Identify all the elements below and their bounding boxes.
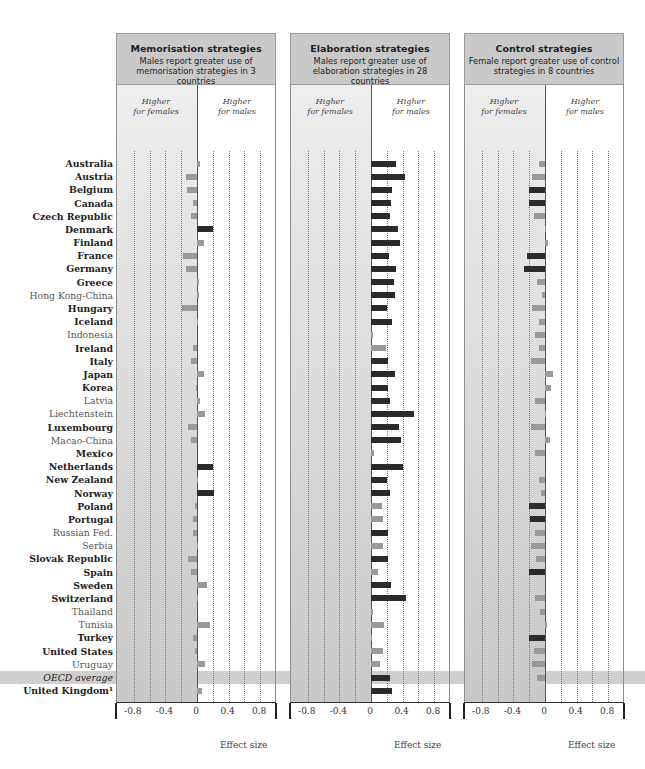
bar-norway	[541, 490, 545, 496]
bar-portugal	[371, 516, 383, 522]
country-label: Netherlands	[0, 460, 113, 473]
gridline	[608, 151, 609, 702]
bar-switzerland	[197, 595, 198, 601]
gridline	[561, 151, 562, 702]
x-tick-label: 0.4	[394, 706, 408, 716]
gridline	[260, 151, 261, 702]
bar-japan	[545, 371, 553, 377]
x-axis: -0.8-0.400.40.8	[464, 702, 624, 719]
x-tick-label: -0.8	[298, 706, 315, 716]
bar-macao-china	[191, 437, 197, 443]
country-label: Tunisia	[0, 618, 113, 631]
gridline	[339, 151, 340, 702]
bar-slovak-republic	[536, 556, 545, 562]
bar-latvia	[371, 398, 390, 404]
x-tick-label: -0.4	[330, 706, 347, 716]
bar-indonesia	[371, 332, 373, 338]
bar-oecd-average	[537, 675, 545, 681]
female-side-shading	[291, 85, 371, 702]
gridline	[134, 151, 135, 702]
country-label: Finland	[0, 236, 113, 249]
zero-line	[197, 85, 198, 702]
bar-poland	[371, 503, 382, 509]
bar-tunisia	[371, 622, 384, 628]
gridline	[498, 151, 499, 702]
bar-liechtenstein	[545, 411, 546, 417]
country-label: Canada	[0, 197, 113, 210]
bar-denmark	[197, 226, 213, 232]
bar-new-zealand	[197, 477, 198, 483]
bar-netherlands	[371, 464, 403, 470]
bar-liechtenstein	[197, 411, 205, 417]
bar-hungary	[371, 305, 387, 311]
gridline	[308, 151, 309, 702]
bar-austria	[371, 174, 405, 180]
bar-mexico	[535, 450, 545, 456]
higher-for-males-label: Higherfor males	[546, 97, 624, 117]
bar-hungary	[182, 305, 197, 311]
bar-luxembourg	[371, 424, 399, 430]
country-label: Portugal	[0, 513, 113, 526]
bar-korea	[196, 385, 197, 391]
bar-united-states	[534, 648, 545, 654]
gridline	[592, 151, 593, 702]
bar-oecd-average	[371, 675, 390, 681]
panel-title: Elaboration strategies	[291, 43, 449, 54]
panel-title: Memorisation strategies	[117, 43, 275, 54]
bar-australia	[371, 161, 396, 167]
bar-germany	[524, 266, 545, 272]
bar-ireland	[193, 345, 197, 351]
bar-serbia	[531, 543, 545, 549]
bar-portugal	[193, 516, 197, 522]
country-label: Luxembourg	[0, 421, 113, 434]
x-axis-title: Effect size	[394, 740, 441, 750]
panel-header: Memorisation strategiesMales report grea…	[116, 33, 276, 85]
bar-austria	[532, 174, 545, 180]
bar-serbia	[371, 543, 383, 549]
bar-united-kingdom	[197, 688, 202, 694]
country-label: Italy	[0, 355, 113, 368]
x-tick-label: 0	[193, 706, 199, 716]
bar-liechtenstein	[371, 411, 414, 417]
bar-greece	[371, 279, 394, 285]
country-label: Germany	[0, 262, 113, 275]
bar-latvia	[197, 398, 200, 404]
bar-denmark	[371, 226, 398, 232]
bar-iceland	[539, 319, 545, 325]
higher-for-females-label: Higherfor females	[117, 97, 195, 117]
country-label: United Kingdom¹	[0, 684, 113, 697]
bar-united-kingdom	[371, 688, 392, 694]
bar-luxembourg	[531, 424, 545, 430]
country-label: France	[0, 249, 113, 262]
country-label: Switzerland	[0, 592, 113, 605]
bar-austria	[186, 174, 197, 180]
x-tick-label: 0.4	[220, 706, 234, 716]
country-label: Macao-China	[0, 434, 113, 447]
bar-czech-republic	[534, 213, 545, 219]
country-label: Korea	[0, 381, 113, 394]
bar-spain	[529, 569, 545, 575]
gridline	[434, 151, 435, 702]
country-label: Poland	[0, 500, 113, 513]
x-tick-label: 0.8	[252, 706, 266, 716]
bar-italy	[371, 358, 388, 364]
bar-spain	[371, 569, 378, 575]
higher-for-females-label: Higherfor females	[465, 97, 543, 117]
bar-finland	[545, 240, 548, 246]
country-label: OECD average	[0, 671, 113, 684]
bar-luxembourg	[188, 424, 197, 430]
bar-uruguay	[197, 661, 205, 667]
country-label: Latvia	[0, 394, 113, 407]
x-axis-title: Effect size	[220, 740, 267, 750]
bar-ireland	[371, 345, 386, 351]
country-label: Serbia	[0, 539, 113, 552]
bar-germany	[186, 266, 197, 272]
country-label: Iceland	[0, 315, 113, 328]
bar-portugal	[530, 516, 545, 522]
x-tick-label: -0.8	[472, 706, 489, 716]
higher-for-males-label: Higherfor males	[198, 97, 276, 117]
country-label: Thailand	[0, 605, 113, 618]
bar-indonesia	[535, 332, 545, 338]
gridline	[181, 151, 182, 702]
bar-finland	[197, 240, 204, 246]
